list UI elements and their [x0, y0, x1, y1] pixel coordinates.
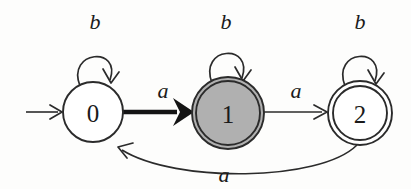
transition-1-to-2: [264, 105, 327, 119]
self-loop-label-state-2: b: [355, 9, 366, 34]
state-label-0: 0: [87, 100, 100, 127]
self-loop-label-state-1: b: [221, 9, 232, 34]
state-node-2[interactable]: 2: [328, 81, 392, 145]
state-node-1[interactable]: 1: [192, 77, 264, 149]
start-arrow-icon: [26, 105, 62, 119]
transition-label-2-to-0: a: [219, 162, 230, 187]
state-label-1: 1: [222, 101, 235, 128]
state-node-0[interactable]: 0: [63, 82, 123, 142]
self-loop-label-state-0: b: [90, 9, 101, 34]
transition-label-1-to-2: a: [291, 78, 302, 103]
automaton-figure: 0 1 2 b b b a a a: [0, 0, 411, 189]
automaton-canvas: 0 1 2 b b b a a a: [0, 0, 411, 189]
transition-label-0-to-1: a: [158, 78, 169, 103]
state-label-2: 2: [354, 101, 367, 128]
